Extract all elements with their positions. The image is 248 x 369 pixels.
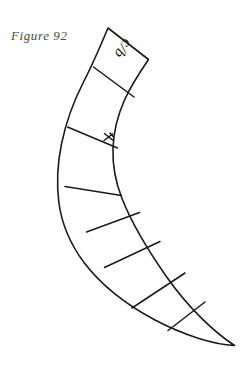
figure-drawing: c/b (0, 0, 248, 369)
figure-canvas: Figure 92 c/b (0, 0, 248, 369)
